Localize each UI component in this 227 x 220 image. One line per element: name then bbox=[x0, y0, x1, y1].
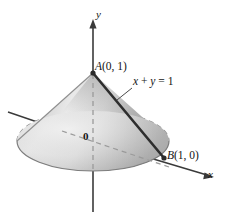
equation-plus-sign: + bbox=[141, 75, 148, 87]
origin-label: 0 bbox=[83, 131, 89, 142]
cone-diagram-figure: A(0, 1) B(1, 0) x + y = 1 y x 0 bbox=[0, 0, 227, 220]
equation-right-side: 1 bbox=[168, 75, 174, 87]
y-axis-label: y bbox=[96, 9, 101, 20]
point-b-name: B bbox=[167, 149, 174, 161]
x-axis-label: x bbox=[208, 169, 213, 180]
equation-term-x: x bbox=[133, 75, 138, 87]
y-axis-arrowhead bbox=[89, 19, 96, 29]
point-a-coords: (0, 1) bbox=[102, 60, 127, 72]
equation-leader-line bbox=[117, 88, 132, 100]
point-a-label: A(0, 1) bbox=[95, 61, 127, 73]
cone-diagram-canvas bbox=[0, 0, 227, 220]
equation-term-y: y bbox=[150, 75, 155, 87]
point-b-label: B(1, 0) bbox=[167, 150, 199, 162]
equation-label: x + y = 1 bbox=[133, 76, 173, 88]
point-b-marker bbox=[161, 155, 166, 160]
point-a-name: A bbox=[95, 60, 102, 72]
point-b-coords: (1, 0) bbox=[174, 149, 199, 161]
equation-equals-sign: = bbox=[158, 75, 165, 87]
